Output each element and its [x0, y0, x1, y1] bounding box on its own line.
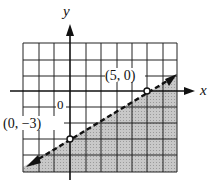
point-label-5-0: (5, 0): [105, 68, 136, 84]
point-label-0-neg3: (0, −3): [3, 116, 42, 132]
x-axis-label: x: [199, 82, 207, 98]
graph-canvas: y x 0 (5, 0) (0, −3): [0, 0, 224, 186]
origin-label: 0: [57, 97, 64, 112]
x-axis-arrow-icon: [184, 87, 195, 95]
point-0-neg3: [67, 136, 73, 142]
y-axis-arrow-icon: [66, 24, 74, 36]
point-5-0: [144, 88, 150, 94]
y-axis-label: y: [61, 3, 70, 19]
